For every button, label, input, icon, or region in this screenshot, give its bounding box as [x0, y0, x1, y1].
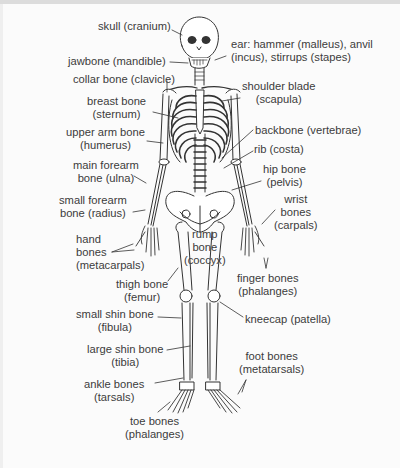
spine-drawing	[194, 134, 206, 192]
skull-drawing	[180, 17, 218, 68]
label-small-forearm-bone: small forearmbone (radius)	[59, 194, 127, 220]
label-small-shin-bone: small shin bone(fibula)	[76, 308, 154, 334]
label-ear: ear: hammer (malleus), anvil(incus), sti…	[231, 38, 373, 64]
label-collar-bone: collar bone (clavicle)	[73, 73, 175, 86]
label-finger-bones: finger bones(phalanges)	[237, 272, 299, 298]
label-shoulder-blade: shoulder blade(scapula)	[242, 80, 315, 106]
label-main-forearm-bone: main forearmbone (ulna)	[73, 159, 139, 185]
label-kneecap: kneecap (patella)	[245, 313, 331, 326]
label-rump-bone: rumpbone(coccyx)	[184, 228, 226, 267]
label-backbone: backbone (vertebrae)	[255, 124, 361, 137]
label-foot-bones: foot bones(metatarsals)	[239, 350, 304, 376]
label-skull: skull (cranium)	[98, 20, 171, 33]
label-toe-bones: toe bones(phalanges)	[125, 415, 184, 441]
label-upper-arm-bone: upper arm bone(humerus)	[66, 126, 145, 152]
label-hip-bone: hip bone(pelvis)	[263, 163, 306, 189]
label-thigh-bone: thigh bone(femur)	[116, 278, 168, 304]
label-jawbone: jawbone (mandible)	[68, 55, 166, 68]
label-ankle-bones: ankle bones(tarsals)	[84, 378, 144, 404]
label-large-shin-bone: large shin bone(tibia)	[87, 343, 164, 369]
label-rib: rib (costa)	[254, 143, 304, 156]
right-arm-drawing	[231, 94, 264, 256]
label-breast-bone: breast bone(sternum)	[87, 95, 146, 121]
label-hand-bones: handbones(metacarpals)	[76, 233, 144, 272]
label-wrist-bones: wristbones(carpals)	[274, 193, 318, 232]
